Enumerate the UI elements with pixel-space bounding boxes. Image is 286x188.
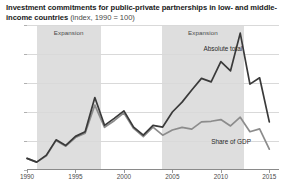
chart-page: Investment commitments for public-privat… <box>0 0 286 188</box>
x-axis-tick <box>124 170 125 173</box>
x-axis-tick-label: 1990 <box>10 173 44 180</box>
chart-title-main: Investment commitments for public-privat… <box>6 3 277 22</box>
series-line-share-of-gdp <box>27 105 269 162</box>
x-axis-tick <box>75 170 76 173</box>
x-axis-tick-label: 2000 <box>107 173 141 180</box>
chart-title: Investment commitments for public-privat… <box>6 3 280 22</box>
chart-title-unit: (index, 1990 = 100) <box>70 13 135 22</box>
x-axis-tick <box>269 170 270 173</box>
x-axis-tick-label: 1995 <box>58 173 92 180</box>
plot-area: ExpansionExpansion 02505007501,0001,2501… <box>27 25 279 170</box>
series-annotation-absolute-total: Absolute total <box>203 45 242 52</box>
x-axis-tick <box>172 170 173 173</box>
y-axis-tick <box>24 83 27 84</box>
x-axis-tick-label: 2005 <box>155 173 189 180</box>
y-axis-tick <box>24 54 27 55</box>
series-annotation-share-of-gdp: Share of GDP <box>211 138 251 145</box>
plot-wrapper: ExpansionExpansion 02505007501,0001,2501… <box>27 25 279 170</box>
y-axis-tick <box>24 112 27 113</box>
x-axis-tick <box>221 170 222 173</box>
y-axis-tick <box>24 25 27 26</box>
x-axis-tick-label: 2010 <box>204 173 238 180</box>
x-axis-tick-label: 2015 <box>252 173 286 180</box>
x-axis-line <box>27 169 279 170</box>
y-axis-tick <box>24 141 27 142</box>
x-axis-tick <box>27 170 28 173</box>
